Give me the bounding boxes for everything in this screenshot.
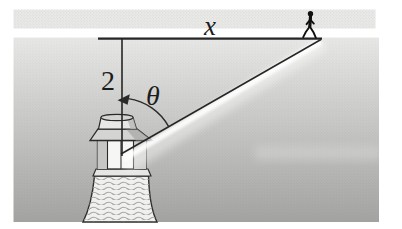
lighthouse-cap <box>99 114 137 129</box>
diagram-canvas: x 2 θ <box>0 0 402 229</box>
lighthouse-tower <box>83 176 157 222</box>
lighthouse-angle-diagram: x 2 θ <box>0 0 402 229</box>
height-label-2: 2 <box>101 65 115 96</box>
angle-label-theta: θ <box>146 80 160 111</box>
light-streak <box>255 146 381 160</box>
top-shaded-strip <box>14 10 376 29</box>
lighthouse-gallery-ledge <box>93 169 151 176</box>
distance-label-x: x <box>203 11 216 41</box>
